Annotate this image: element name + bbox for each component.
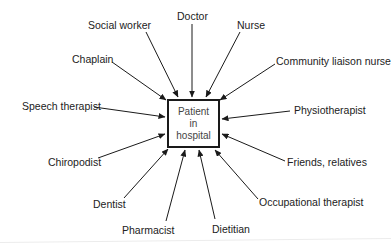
patient-in-hospital-box: Patient in hospital [167,99,220,148]
label-occupational-therapist: Occupational therapist [259,196,363,208]
arrow-occupational-therapist [215,150,258,199]
arrow-pharmacist [166,150,185,221]
center-line-3: hospital [176,130,210,142]
label-friends-relatives: Friends, relatives [287,156,367,168]
center-line-1: Patient [178,106,209,118]
arrow-community-liaison-nurse [220,64,275,100]
care-network-diagram: Patient in hospital Doctor Social worker… [0,0,391,249]
label-chaplain: Chaplain [72,53,113,65]
label-dietitian: Dietitian [212,223,250,235]
arrow-nurse [206,32,240,97]
label-doctor: Doctor [177,10,208,22]
arrow-friends-relatives [222,134,285,161]
label-speech-therapist: Speech therapist [22,100,101,112]
label-community-liaison-nurse: Community liaison nurse [276,55,391,67]
arrow-chaplain [112,62,166,100]
label-social-worker: Social worker [88,19,151,31]
label-chiropodist: Chiropodist [48,156,101,168]
arrow-dentist [124,149,168,198]
label-physiotherapist: Physiotherapist [294,104,366,116]
label-nurse: Nurse [237,19,265,31]
center-line-2: in [190,118,198,130]
arrow-physiotherapist [222,111,290,119]
arrow-social-worker [146,32,178,97]
label-pharmacist: Pharmacist [122,224,175,236]
arrow-chiropodist [98,134,165,158]
arrow-dietitian [199,150,215,219]
label-dentist: Dentist [93,198,126,210]
arrow-speech-therapist [94,107,165,117]
